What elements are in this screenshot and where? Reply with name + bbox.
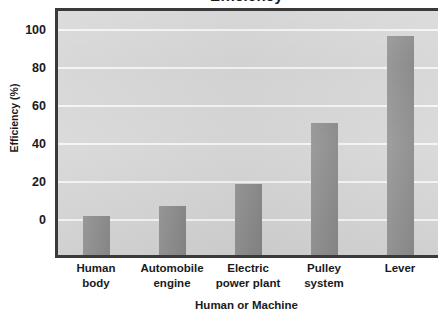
y-tick-label-60: 60 bbox=[32, 99, 46, 113]
bar-lever bbox=[387, 36, 414, 258]
y-tick-label-100: 100 bbox=[25, 23, 46, 37]
x-tick-line: body bbox=[77, 276, 116, 291]
gridline-80 bbox=[58, 67, 438, 69]
x-axis-label: Human or Machine bbox=[55, 299, 438, 311]
plot-inner bbox=[58, 11, 438, 255]
gridline-40 bbox=[58, 143, 438, 145]
y-tick-label-80: 80 bbox=[32, 61, 46, 75]
x-tick-line: engine bbox=[140, 276, 203, 291]
x-tick-line: Automobile bbox=[140, 261, 203, 276]
x-tick-line: system bbox=[304, 276, 344, 291]
y-tick-label-40: 40 bbox=[32, 137, 46, 151]
x-tick-label-pulley-system: Pulleysystem bbox=[304, 261, 344, 291]
y-tick-label-20: 20 bbox=[32, 175, 46, 189]
gridline-60 bbox=[58, 105, 438, 107]
bar-electric-power-plant bbox=[235, 184, 262, 258]
x-axis-tick-labels: HumanbodyAutomobileengineElectricpower p… bbox=[55, 261, 438, 301]
x-tick-label-lever: Lever bbox=[385, 261, 416, 276]
bar-automobile-engine bbox=[159, 206, 186, 258]
x-tick-label-electric-power-plant: Electricpower plant bbox=[216, 261, 281, 291]
y-tick-label-0: 0 bbox=[39, 213, 46, 227]
x-tick-label-human-body: Humanbody bbox=[77, 261, 116, 291]
plot-area bbox=[55, 8, 438, 258]
x-tick-line: power plant bbox=[216, 276, 281, 291]
gridline-20 bbox=[58, 181, 438, 183]
x-tick-line: Pulley bbox=[304, 261, 344, 276]
efficiency-bar-chart-figure: Efficiency Efficiency (%) 020406080100 H… bbox=[0, 0, 438, 323]
y-axis-tick-labels: 020406080100 bbox=[0, 0, 52, 323]
gridline-100 bbox=[58, 29, 438, 31]
x-tick-line: Electric bbox=[216, 261, 281, 276]
bar-human-body bbox=[83, 216, 110, 258]
bar-pulley-system bbox=[311, 123, 338, 258]
x-tick-label-automobile-engine: Automobileengine bbox=[140, 261, 203, 291]
chart-title: Efficiency bbox=[55, 0, 438, 4]
x-tick-line: Lever bbox=[385, 261, 416, 276]
x-tick-line: Human bbox=[77, 261, 116, 276]
